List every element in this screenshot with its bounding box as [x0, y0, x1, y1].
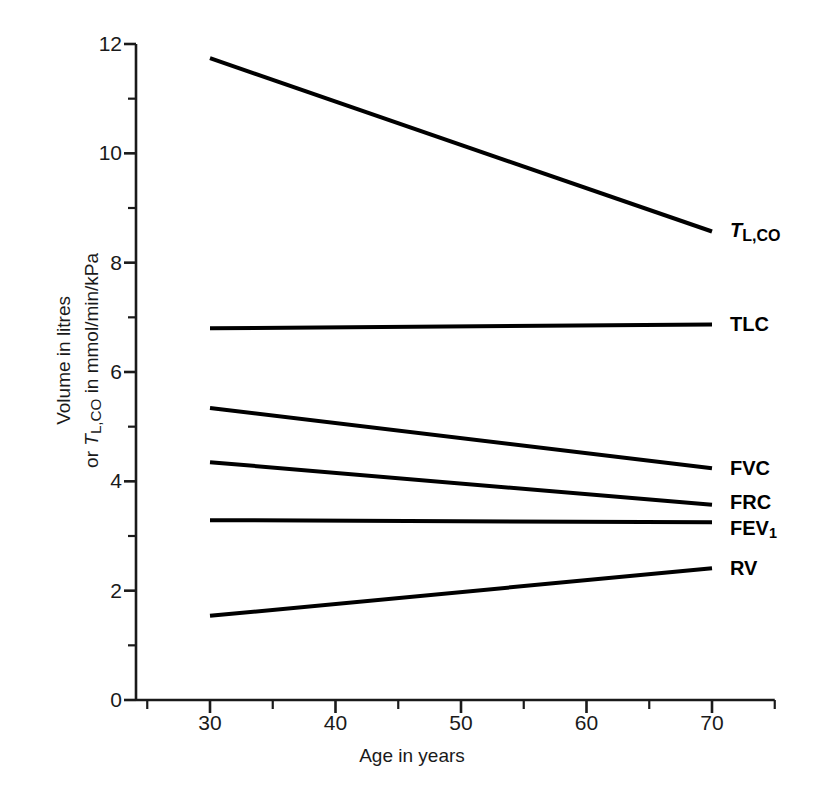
- y-tick-label: 8: [80, 251, 122, 275]
- series-label-text: FVC: [730, 457, 770, 479]
- series-label-fev1: FEV1: [730, 517, 777, 542]
- y-axis-label-symbol-subscript: L,CO: [87, 399, 104, 434]
- x-tick-label: 30: [198, 711, 221, 735]
- series-line-t-l-co: [210, 58, 712, 231]
- y-tick-label: 6: [80, 360, 122, 384]
- series-label-text: FEV: [730, 517, 769, 539]
- series-label-rv: RV: [730, 557, 757, 580]
- axis-ticks: [124, 44, 775, 713]
- data-lines: [210, 58, 712, 616]
- series-label-tlc: TLC: [730, 313, 769, 336]
- series-label-text: TLC: [730, 313, 769, 335]
- series-label-subscript: 1: [769, 526, 777, 542]
- y-tick-label: 4: [80, 469, 122, 493]
- x-tick-label: 60: [575, 711, 598, 735]
- series-label-t-l-co: TL,CO: [730, 219, 780, 245]
- x-tick-label: 70: [700, 711, 723, 735]
- y-tick-label: 10: [80, 141, 122, 165]
- series-line-frc: [210, 462, 712, 505]
- x-tick-label: 50: [449, 711, 472, 735]
- x-axis-label: Age in years: [0, 745, 824, 767]
- y-axis-label-symbol: T: [81, 434, 102, 446]
- series-label-text: T: [730, 219, 742, 241]
- chart-plot-area: [0, 0, 824, 806]
- series-line-fev1: [210, 520, 712, 522]
- series-label-fvc: FVC: [730, 457, 770, 480]
- series-line-rv: [210, 568, 712, 616]
- y-tick-label: 12: [80, 32, 122, 56]
- series-label-text: RV: [730, 557, 757, 579]
- series-line-tlc: [210, 324, 712, 328]
- y-tick-label: 2: [80, 579, 122, 603]
- x-tick-label: 40: [324, 711, 347, 735]
- y-tick-label: 0: [80, 688, 122, 712]
- series-label-text: FRC: [730, 491, 771, 513]
- y-axis-label-line2-prefix: or: [81, 446, 102, 468]
- series-label-frc: FRC: [730, 491, 771, 514]
- series-label-subscript: L,CO: [742, 227, 780, 244]
- figure-container: Volume in litres or TL,CO in mmol/min/kP…: [0, 0, 824, 806]
- y-axis-label-line1: Volume in litres: [50, 160, 78, 560]
- series-line-fvc: [210, 408, 712, 468]
